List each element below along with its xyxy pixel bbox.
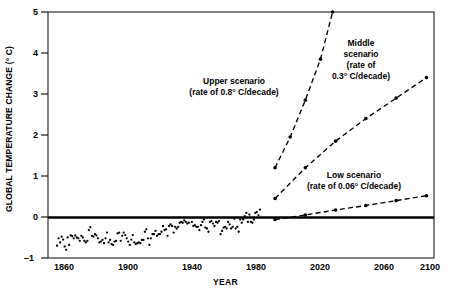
scatter-point bbox=[229, 223, 231, 225]
scatter-point bbox=[197, 226, 199, 228]
scatter-point bbox=[198, 229, 200, 231]
annotation-middle-line1: Middle bbox=[305, 38, 417, 49]
scatter-point bbox=[147, 237, 149, 239]
x-tick-label-2100: 2100 bbox=[410, 262, 450, 272]
scatter-point bbox=[95, 234, 97, 236]
scenario-marker bbox=[394, 96, 398, 100]
chart-figure: GLOBAL TEMPERATURE CHANGE (° C) 5 4 3 2 … bbox=[0, 0, 451, 298]
scatter-point bbox=[166, 235, 168, 237]
annotation-middle-scenario: Middle scenario (rate of 0.3° C/decade) bbox=[305, 38, 417, 82]
scatter-point bbox=[56, 245, 58, 247]
scatter-point bbox=[251, 222, 253, 224]
annotation-upper-line1: Upper scenario bbox=[168, 76, 300, 87]
scatter-point bbox=[225, 227, 227, 229]
x-axis-title: YEAR bbox=[0, 277, 451, 287]
y-tick-label-4: 4 bbox=[16, 48, 38, 58]
x-tick-label-1980: 1980 bbox=[236, 262, 276, 272]
scatter-point bbox=[68, 244, 70, 246]
scatter-point bbox=[201, 221, 203, 223]
scatter-point bbox=[92, 236, 94, 238]
scatter-point bbox=[71, 235, 73, 237]
scatter-point bbox=[248, 213, 250, 215]
scatter-point bbox=[82, 236, 84, 238]
scatter-point bbox=[207, 231, 209, 233]
scatter-point bbox=[182, 222, 184, 224]
scatter-point bbox=[104, 237, 106, 239]
scatter-point bbox=[218, 220, 220, 222]
scatter-point bbox=[148, 244, 150, 246]
scatter-point bbox=[257, 214, 259, 216]
scatter-point bbox=[88, 229, 90, 231]
annotation-middle-line3: (rate of bbox=[305, 60, 417, 71]
scatter-point bbox=[256, 211, 258, 213]
scenario-marker bbox=[273, 218, 277, 222]
scatter-point bbox=[154, 230, 156, 232]
scatter-point bbox=[79, 240, 81, 242]
scatter-point bbox=[77, 237, 79, 239]
scatter-point bbox=[142, 239, 144, 241]
scatter-point bbox=[127, 240, 129, 242]
scatter-point bbox=[160, 231, 162, 233]
scatter-point bbox=[206, 227, 208, 229]
scatter-point bbox=[219, 233, 221, 235]
annotation-upper-scenario: Upper scenario (rate of 0.8° C/decade) bbox=[168, 76, 300, 98]
scenario-marker bbox=[304, 98, 308, 102]
scatter-point bbox=[120, 240, 122, 242]
scatter-point bbox=[62, 238, 64, 240]
scatter-point bbox=[236, 226, 238, 228]
scenario-marker bbox=[394, 199, 398, 203]
scatter-point bbox=[109, 239, 111, 241]
scatter-point bbox=[203, 218, 205, 220]
scatter-point bbox=[188, 222, 190, 224]
scatter-point bbox=[139, 242, 141, 244]
scatter-point bbox=[101, 239, 103, 241]
scatter-point bbox=[73, 237, 75, 239]
scatter-point bbox=[103, 242, 105, 244]
scatter-point bbox=[89, 226, 91, 228]
scatter-point bbox=[239, 218, 241, 220]
scatter-point bbox=[65, 249, 67, 251]
annotation-upper-line2: (rate of 0.8° C/decade) bbox=[168, 87, 300, 98]
scatter-point bbox=[74, 234, 76, 236]
scenario-marker bbox=[334, 208, 338, 212]
scatter-point bbox=[129, 244, 131, 246]
y-tick-label-minus-1: –1 bbox=[12, 253, 34, 263]
scatter-point bbox=[221, 230, 223, 232]
scatter-point bbox=[123, 231, 125, 233]
x-tick-label-2060: 2060 bbox=[364, 262, 404, 272]
scatter-point bbox=[238, 231, 240, 233]
scatter-point bbox=[64, 245, 66, 247]
scatter-point bbox=[150, 237, 152, 239]
scatter-point bbox=[59, 241, 61, 243]
scenario-marker bbox=[273, 197, 277, 201]
scatter-point bbox=[57, 237, 59, 239]
scatter-point bbox=[259, 208, 261, 210]
scatter-point bbox=[124, 234, 126, 236]
scatter-point bbox=[232, 226, 234, 228]
x-tick-label-1900: 1900 bbox=[108, 262, 148, 272]
scatter-point bbox=[145, 228, 147, 230]
annotation-low-scenario: Low scenario (rate of 0.06° C/decade) bbox=[278, 170, 430, 192]
scatter-point bbox=[159, 233, 161, 235]
scatter-point bbox=[244, 215, 246, 217]
scenario-marker bbox=[304, 213, 308, 217]
scatter-point bbox=[107, 241, 109, 243]
scatter-point bbox=[153, 233, 155, 235]
scatter-point bbox=[67, 236, 69, 238]
scatter-point bbox=[165, 228, 167, 230]
scatter-point bbox=[233, 217, 235, 219]
scatter-point bbox=[86, 240, 88, 242]
scatter-point bbox=[130, 238, 132, 240]
y-tick-label-1: 1 bbox=[16, 171, 38, 181]
scatter-point bbox=[200, 224, 202, 226]
scatter-point bbox=[121, 235, 123, 237]
scatter-point bbox=[112, 244, 114, 246]
scenario-marker bbox=[364, 204, 368, 208]
y-tick-label-5: 5 bbox=[16, 7, 38, 17]
scatter-point bbox=[126, 237, 128, 239]
scatter-point bbox=[253, 218, 255, 220]
annotation-low-line1: Low scenario bbox=[278, 170, 430, 181]
scatter-point bbox=[177, 226, 179, 228]
scatter-point bbox=[172, 231, 174, 233]
scatter-point bbox=[242, 218, 244, 220]
